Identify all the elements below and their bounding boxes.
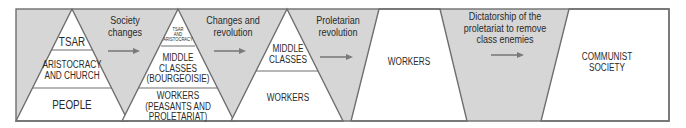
transition-label: Proletarian revolution [316, 15, 360, 38]
layer-label: WORKERS (PEASANTS AND PROLETARIAT) [145, 91, 211, 123]
transition-label: Dictatorship of the proletariat to remov… [464, 11, 547, 46]
stage-label: COMMUNIST SOCIETY [582, 52, 633, 73]
layer-label: MIDDLE CLASSES [269, 44, 307, 65]
layer-label: MIDDLE CLASSES (BOURGEOISIE) [147, 53, 210, 85]
layer-label: TSAR AND ARISTOCRACY [163, 27, 193, 42]
layer-label: PEOPLE [52, 99, 91, 112]
layer-label: ARISTOCRACY AND CHURCH [42, 60, 101, 81]
stage-label: WORKERS [388, 57, 430, 68]
layer-label: WORKERS [267, 93, 309, 104]
layer-label: TSAR [59, 36, 85, 49]
transition-label: Changes and revolution [206, 15, 260, 38]
transition-label: Society changes [108, 15, 142, 38]
